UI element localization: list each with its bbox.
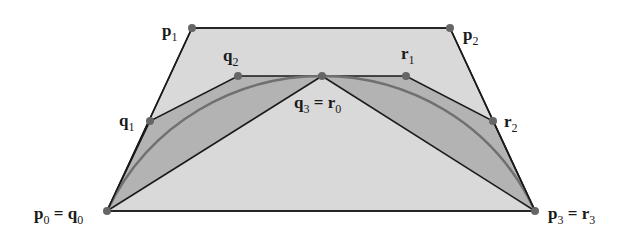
label-p2: p2: [463, 25, 478, 48]
point-p0: [103, 207, 111, 215]
point-r2: [489, 117, 497, 125]
point-q3: [318, 72, 326, 80]
label-r2: r2: [504, 112, 518, 135]
point-q1: [146, 117, 154, 125]
point-r1: [402, 72, 410, 80]
label-p0-q0: p0 = q0: [34, 204, 83, 227]
bezier-subdivision-diagram: p1 p2 q2 r1 q1 r2 q3 = r0 p0 = q0 p3 = r…: [0, 0, 637, 238]
point-p1: [188, 24, 196, 32]
label-p3-r3: p3 = r3: [548, 204, 595, 227]
label-q1: q1: [119, 111, 134, 134]
point-q2: [234, 72, 242, 80]
point-p3: [531, 207, 539, 215]
point-p2: [446, 24, 454, 32]
label-p1: p1: [162, 21, 177, 44]
